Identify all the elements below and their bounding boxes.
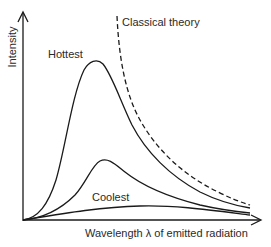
blackbody-chart: Intensity Wavelength λ of emitted radiat… bbox=[0, 0, 271, 247]
hottest-label: Hottest bbox=[48, 49, 83, 60]
x-axis-label: Wavelength λ of emitted radiation bbox=[85, 228, 248, 239]
chart-plot-area bbox=[0, 0, 271, 247]
hottest-curve bbox=[23, 61, 250, 220]
classical-theory-curve bbox=[117, 16, 250, 205]
y-axis-label: Intensity bbox=[7, 27, 18, 68]
classical-theory-label: Classical theory bbox=[122, 17, 200, 28]
coolest-label: Coolest bbox=[92, 192, 129, 203]
